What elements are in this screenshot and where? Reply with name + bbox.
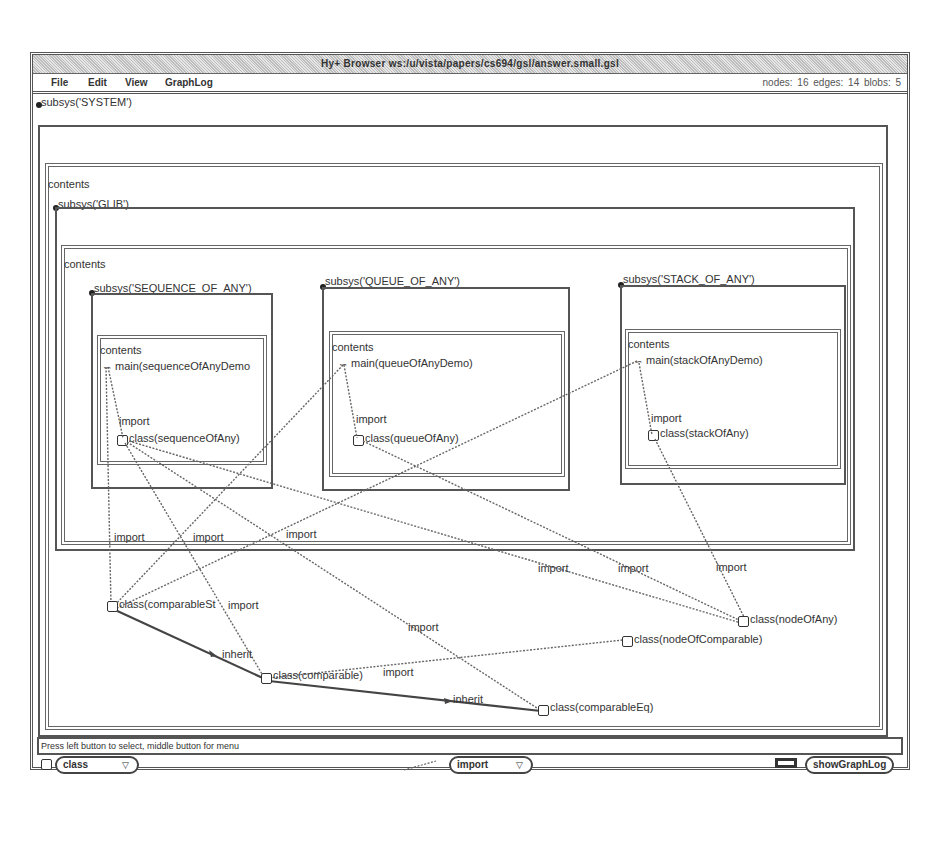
edge-label-import: import: [193, 531, 224, 543]
edge-label-import: import: [228, 599, 259, 611]
import-edge-style-icon: [403, 759, 437, 771]
show-graphlog-button[interactable]: showGraphLog: [805, 756, 894, 774]
nodeOfComparable-node-label[interactable]: class(nodeOfComparable): [634, 633, 762, 645]
graph-canvas[interactable]: subsys('SYSTEM') contents subsys('GLIB')…: [33, 95, 907, 737]
menu-bar: File Edit View GraphLog nodes: 16 edges:…: [33, 74, 907, 94]
menu-file[interactable]: File: [51, 74, 68, 91]
window-title: Hy+ Browser ws:/u/vista/papers/cs694/gsl…: [321, 58, 619, 69]
comparableEq-node-label[interactable]: class(comparableEq): [550, 701, 653, 713]
edge-label-import: import: [114, 531, 145, 543]
dropdown-arrow-icon: ▽: [516, 758, 523, 772]
edge-type-dropdown[interactable]: import ▽: [449, 756, 533, 774]
edge-label-import: import: [383, 666, 414, 678]
class-node-icon: [622, 636, 633, 647]
window-title-bar[interactable]: Hy+ Browser ws:/u/vista/papers/cs694/gsl…: [33, 55, 907, 74]
edge-label-inherit: inherit: [222, 648, 252, 660]
class-node-icon: [738, 616, 749, 627]
comparableSt-node-label[interactable]: class(comparableSt: [119, 598, 216, 610]
class-node-type-icon: [41, 759, 52, 770]
hy-browser-window: Hy+ Browser ws:/u/vista/papers/cs694/gsl…: [30, 52, 910, 770]
comparable-node-label[interactable]: class(comparable): [273, 669, 363, 681]
bottom-toolbar: class ▽ import ▽ showGraphLog: [33, 755, 907, 773]
edge-label-import: import: [408, 621, 439, 633]
edge-label-import: import: [286, 528, 317, 540]
show-graphlog-label: showGraphLog: [813, 759, 886, 770]
node-type-dropdown[interactable]: class ▽: [55, 756, 139, 774]
edge-label-import: import: [538, 562, 569, 574]
edge-label-import: import: [716, 561, 747, 573]
node-type-value: class: [63, 759, 88, 770]
class-node-icon: [107, 601, 118, 612]
blob-style-swatch[interactable]: [775, 758, 797, 768]
class-node-icon: [261, 673, 272, 684]
status-message: Press left button to select, middle butt…: [37, 737, 903, 755]
nodeOfAny-node-label[interactable]: class(nodeOfAny): [750, 613, 837, 625]
graph-stats: nodes: 16 edges: 14 blobs: 5: [763, 74, 901, 91]
dropdown-arrow-icon: ▽: [122, 758, 129, 772]
menu-edit[interactable]: Edit: [88, 74, 107, 91]
edge-label-import: import: [618, 562, 649, 574]
class-node-icon: [538, 705, 549, 716]
menu-graphlog[interactable]: GraphLog: [165, 74, 213, 91]
menu-view[interactable]: View: [125, 74, 148, 91]
edges-layer: [33, 95, 907, 737]
edge-type-value: import: [457, 759, 488, 770]
edge-label-inherit: inherit: [453, 693, 483, 705]
